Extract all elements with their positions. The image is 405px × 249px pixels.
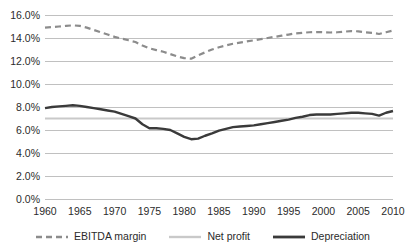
chart-legend: EBITDA marginNet profitDepreciation: [0, 224, 405, 249]
legend-label: Depreciation: [311, 231, 370, 242]
legend-item-depreciation[interactable]: Depreciation: [272, 231, 370, 242]
y-axis-tick-label: 14.0%: [10, 33, 40, 44]
y-axis-tick-label: 16.0%: [10, 10, 40, 21]
y-axis-tick-label: 4.0%: [16, 148, 40, 159]
y-axis-tick-label: 10.0%: [10, 79, 40, 90]
legend-label: Net profit: [207, 231, 250, 242]
y-axis-tick-label: 8.0%: [16, 102, 40, 113]
legend-swatch-solid-line-icon: [168, 232, 202, 242]
y-axis-tick-label: 2.0%: [16, 171, 40, 182]
y-axis-tick-label: 6.0%: [16, 125, 40, 136]
x-axis-tick-label: 2010: [373, 206, 405, 217]
gridlines: [45, 15, 393, 199]
series-line-ebitda-margin: [45, 25, 393, 58]
y-axis-tick-label: 0.0%: [16, 194, 40, 205]
chart-container: 0.0%2.0%4.0%6.0%8.0%10.0%12.0%14.0%16.0%…: [0, 0, 405, 249]
legend-label: EBITDA margin: [74, 231, 146, 242]
y-axis-tick-label: 12.0%: [10, 56, 40, 67]
series-line-depreciation: [45, 105, 393, 139]
legend-swatch-solid-line-icon: [272, 232, 306, 242]
legend-item-net-profit[interactable]: Net profit: [168, 231, 250, 242]
series-lines: [45, 25, 393, 139]
legend-item-ebitda-margin[interactable]: EBITDA margin: [35, 231, 146, 242]
legend-swatch-dashed-line-icon: [35, 232, 69, 242]
